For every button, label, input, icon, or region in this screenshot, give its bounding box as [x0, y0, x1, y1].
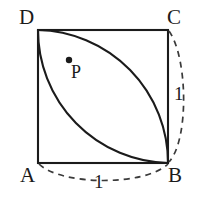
vertex-label-a: A — [20, 165, 35, 186]
geometry-figure: D C A B P 1 1 — [0, 0, 202, 201]
arc-centered-at-C — [38, 30, 168, 163]
dashed-arc-bottom-side — [39, 164, 168, 181]
measure-label-bottom-side: 1 — [94, 172, 104, 191]
point-label-p: P — [71, 63, 81, 81]
vertex-label-b: B — [168, 165, 182, 186]
vertex-label-d: D — [19, 7, 34, 28]
measure-label-right-side: 1 — [174, 84, 184, 103]
square-abcd — [38, 30, 168, 163]
arc-centered-at-A — [38, 30, 168, 163]
vertex-label-c: C — [167, 7, 181, 28]
